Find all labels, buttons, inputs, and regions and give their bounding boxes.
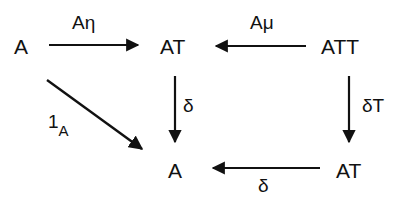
identity-subscript: A: [59, 122, 69, 139]
label-delta-t: δT: [362, 96, 384, 115]
label-delta-mid: δ: [183, 96, 194, 115]
identity-main: 1: [48, 111, 59, 132]
label-a-eta: Aη: [72, 13, 95, 32]
node-at-top-mid: AT: [160, 36, 185, 57]
node-at-bottom-right: AT: [336, 160, 361, 181]
label-identity: 1A: [48, 112, 69, 131]
node-att-top-right: ATT: [321, 36, 359, 57]
label-a-mu: Aμ: [250, 13, 274, 32]
node-a-top-left: A: [14, 36, 28, 57]
label-delta-bottom: δ: [258, 176, 269, 195]
node-a-bottom-mid: A: [168, 160, 182, 181]
